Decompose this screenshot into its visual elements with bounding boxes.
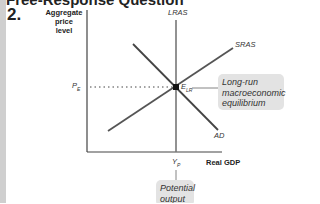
y-axis-label-line: price — [44, 17, 84, 26]
pe-sub: E — [77, 86, 80, 92]
callout-line: equilibrium — [222, 98, 280, 109]
x-axis-label: Real GDP — [206, 158, 240, 167]
y-axis-label-line: level — [44, 26, 84, 35]
y-axis-label-line: Aggregate — [44, 8, 84, 17]
potential-output-callout: Potential output — [156, 180, 194, 203]
callout-line: macroeconomic — [222, 88, 280, 99]
elr-sub: LR — [186, 87, 192, 93]
equilibrium-callout: Long-run macroeconomic equilibrium — [218, 74, 284, 110]
callout-line: Long-run — [222, 77, 280, 88]
callout-line: output — [160, 194, 190, 204]
elr-label: ELR — [181, 82, 192, 93]
callout-line: Potential — [160, 183, 190, 194]
lras-label: LRAS — [168, 8, 188, 17]
yp-sub: P — [177, 162, 180, 168]
equilibrium-point — [173, 84, 179, 90]
sras-curve — [108, 48, 233, 131]
pe-label: PE — [72, 81, 80, 92]
yp-label: YP — [172, 157, 180, 168]
y-axis-label: Aggregate price level — [44, 8, 84, 35]
ad-label: AD — [214, 131, 224, 140]
sras-label: SRAS — [235, 40, 255, 49]
